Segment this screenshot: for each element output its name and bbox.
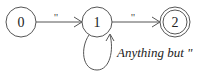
state-1: 1 bbox=[82, 7, 112, 37]
state-1-label: 1 bbox=[94, 15, 101, 30]
self-loop-label: Anything but " bbox=[116, 45, 193, 60]
transition-0-1-label: " bbox=[54, 11, 59, 23]
state-2-accepting: 2 bbox=[160, 7, 190, 37]
transition-0-to-1: " bbox=[36, 11, 82, 27]
transition-1-2-label: " bbox=[131, 11, 136, 23]
self-loop-curve bbox=[84, 35, 112, 70]
state-0: 0 bbox=[6, 7, 36, 37]
fsm-diagram: 0 " 1 Anything but " " 2 bbox=[0, 0, 199, 73]
transition-1-to-2: " bbox=[112, 11, 160, 27]
transition-1-self-loop: Anything but " bbox=[84, 34, 193, 70]
state-0-label: 0 bbox=[18, 15, 25, 30]
state-2-label: 2 bbox=[172, 15, 179, 30]
